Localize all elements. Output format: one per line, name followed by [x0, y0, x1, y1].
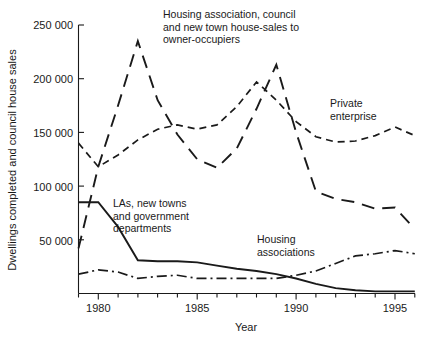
y-axis-ticks [79, 25, 85, 240]
series-private-enterprise [79, 82, 415, 167]
x-tick-label-1990: 1990 [284, 302, 308, 314]
y-tick-label-250000: 250 000 [33, 19, 73, 31]
x-tick-label-1980: 1980 [86, 302, 110, 314]
housing-associations-label: Housing associations [257, 233, 315, 258]
y-tick-label-150000: 150 000 [33, 127, 73, 139]
private-enterprise-label: Private enterprise [330, 97, 377, 122]
x-axis-ticks [79, 294, 415, 300]
y-axis-title: Dwellings completed and council house sa… [6, 49, 18, 271]
x-tick-label-1995: 1995 [383, 302, 407, 314]
y-tick-label-50000: 50 000 [39, 235, 73, 247]
housing-association-sales-label: Housing association, council and new tow… [163, 8, 302, 45]
line-chart: Dwellings completed and council house sa… [0, 0, 427, 337]
y-tick-label-200000: 200 000 [33, 73, 73, 85]
chart-figure: Dwellings completed and council house sa… [0, 0, 427, 337]
y-tick-label-100000: 100 000 [33, 181, 73, 193]
las-new-towns-label: LAs, new towns and government department… [113, 197, 192, 234]
x-axis-title: Year [235, 321, 258, 333]
x-tick-label-1985: 1985 [185, 302, 209, 314]
series-housing-associations [79, 251, 415, 279]
